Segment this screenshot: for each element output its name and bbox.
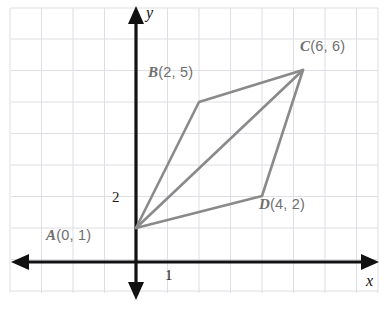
point-coords-c: (6, 6)	[310, 38, 345, 54]
point-label-b: B(2, 5)	[148, 64, 193, 81]
point-label-c: C(6, 6)	[300, 38, 345, 55]
point-coords-b: (2, 5)	[158, 64, 193, 80]
point-label-d: D(4, 2)	[259, 196, 305, 213]
y-axis-tick-label-2: 2	[112, 189, 120, 206]
point-name-b: B	[148, 64, 158, 80]
point-coords-d: (4, 2)	[270, 196, 305, 212]
y-axis-label: y	[146, 4, 153, 22]
point-coords-a: (0, 1)	[56, 227, 91, 243]
x-axis-tick-label-1: 1	[165, 267, 173, 284]
x-axis-label: x	[366, 272, 373, 290]
point-label-a: A(0, 1)	[46, 227, 91, 244]
coordinate-plane-figure: A(0, 1) B(2, 5) C(6, 6) D(4, 2) 2 1 x y	[0, 0, 389, 309]
point-name-d: D	[259, 196, 270, 212]
point-name-c: C	[300, 38, 310, 54]
point-name-a: A	[46, 227, 56, 243]
